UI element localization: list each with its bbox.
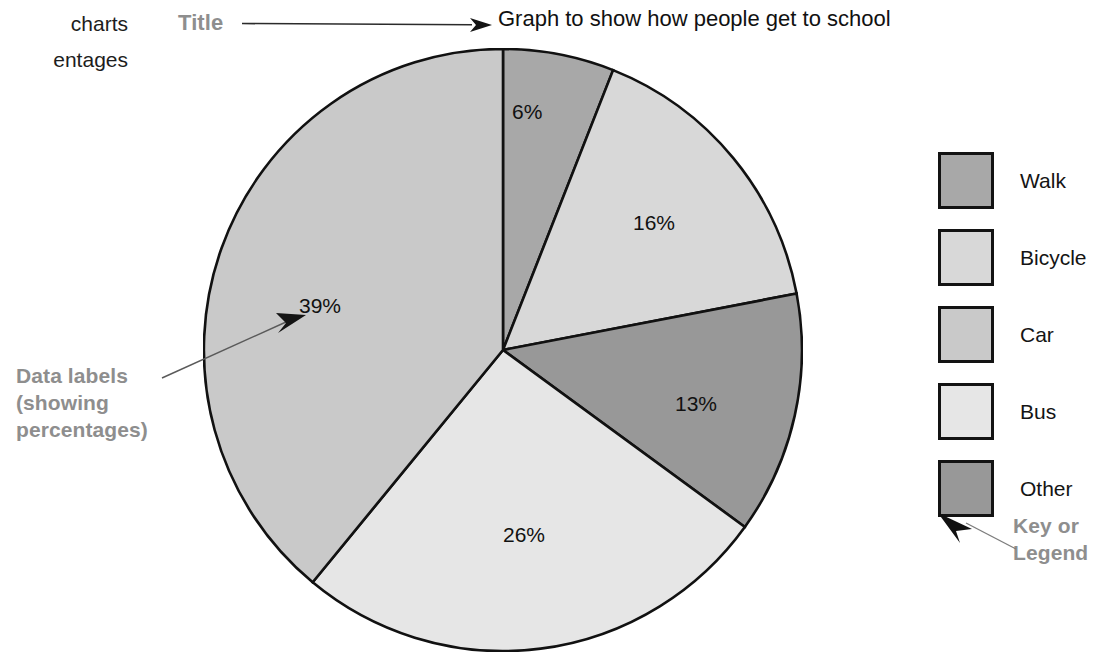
data-labels-leader-arrow: [160, 290, 320, 385]
data-label-walk: 6%: [512, 100, 542, 124]
data-label-bus: 26%: [503, 523, 545, 547]
page-text-fragment-line-2: entages: [0, 42, 128, 78]
key-legend-callout-line-1: Key or: [1013, 512, 1106, 539]
legend-swatch-bicycle: [938, 229, 994, 286]
legend-item-walk[interactable]: Walk: [938, 152, 1098, 229]
data-label-other: 13%: [675, 392, 717, 416]
legend-label-car: Car: [1020, 323, 1054, 347]
legend-swatch-car: [938, 306, 994, 363]
legend-label-other: Other: [1020, 477, 1073, 501]
key-legend-leader-arrow: [930, 505, 1020, 555]
chart-legend: Walk Bicycle Car Bus Other: [938, 152, 1098, 537]
legend-item-car[interactable]: Car: [938, 306, 1098, 383]
legend-item-bicycle[interactable]: Bicycle: [938, 229, 1098, 306]
key-legend-callout: Key or Legend: [1013, 512, 1106, 566]
data-labels-callout-line-2: (showing: [16, 389, 226, 416]
page-text-fragment: charts entages: [0, 6, 128, 78]
legend-item-bus[interactable]: Bus: [938, 383, 1098, 460]
data-label-bicycle: 16%: [633, 211, 675, 235]
page-text-fragment-line-1: charts: [0, 6, 128, 42]
legend-label-bicycle: Bicycle: [1020, 246, 1087, 270]
legend-swatch-bus: [938, 383, 994, 440]
key-legend-callout-line-2: Legend: [1013, 539, 1106, 566]
data-labels-callout-line-3: percentages): [16, 416, 226, 443]
legend-label-bus: Bus: [1020, 400, 1056, 424]
legend-label-walk: Walk: [1020, 169, 1066, 193]
title-leader-arrow: [240, 8, 502, 42]
legend-swatch-walk: [938, 152, 994, 209]
chart-title: Graph to show how people get to school: [498, 6, 891, 32]
title-callout-label: Title: [178, 9, 223, 36]
